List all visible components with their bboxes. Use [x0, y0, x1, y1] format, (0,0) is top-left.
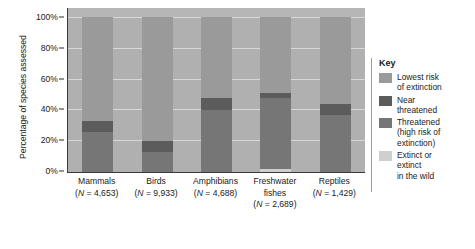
y-tick-mark-0 — [59, 171, 64, 172]
x-label-name: Mammals — [67, 176, 126, 188]
bar-amphibians — [201, 17, 232, 172]
legend-item-2: Threatened(high risk ofextinction) — [379, 117, 475, 148]
legend-label-0: Lowest riskof extinction — [397, 72, 442, 93]
plot-top-margin — [68, 8, 365, 17]
x-label-sample-size: (N = 9,933) — [126, 188, 185, 200]
legend-items: Lowest riskof extinctionNearthreatenedTh… — [379, 72, 475, 181]
legend: Key Lowest riskof extinctionNearthreaten… — [371, 58, 475, 192]
bar-segment-extinct-or-extinct-in-the-wild — [260, 169, 291, 172]
x-label-sample-size: (N = 4,688) — [186, 188, 245, 200]
bar-segment-lowest-risk-of-extinction — [142, 17, 173, 141]
y-tick-label-0: 0% — [46, 166, 58, 176]
legend-swatch-1 — [379, 96, 392, 106]
legend-swatch-0 — [379, 73, 392, 83]
legend-swatch-3 — [379, 151, 392, 161]
x-label-sample-size: (N = 2,689) — [245, 199, 304, 211]
legend-item-1: Nearthreatened — [379, 95, 475, 116]
legend-label-line: (high risk of — [397, 127, 440, 137]
x-label-sample-size: (N = 1,429) — [305, 188, 364, 200]
x-label-name: Reptiles — [305, 176, 364, 188]
y-tick-label-20: 20% — [41, 135, 58, 145]
x-label-name: Birds — [126, 176, 185, 188]
x-axis-label-amphibians: Amphibians(N = 4,688) — [186, 176, 245, 199]
bar-mammals — [82, 17, 113, 172]
x-label-name-line2: fishes — [245, 188, 304, 200]
legend-label-line: extinct — [397, 160, 434, 170]
legend-label-line: Extinct or — [397, 150, 434, 160]
legend-label-line: extinction) — [397, 138, 440, 148]
x-axis-label-mammals: Mammals(N = 4,653) — [67, 176, 126, 199]
x-axis-label-birds: Birds(N = 9,933) — [126, 176, 185, 199]
bar-segment-near-threatened — [142, 141, 173, 152]
bar-segment-threatened-high-risk-of-extinction — [201, 110, 232, 172]
bar-segment-lowest-risk-of-extinction — [82, 17, 113, 121]
legend-swatch-2 — [379, 118, 392, 128]
y-tick-mark-40 — [59, 109, 64, 110]
bar-segment-threatened-high-risk-of-extinction — [82, 132, 113, 172]
legend-label-1: Nearthreatened — [397, 95, 437, 116]
bar-segment-threatened-high-risk-of-extinction — [320, 115, 351, 172]
plot-area — [67, 8, 365, 172]
y-tick-mark-60 — [59, 78, 64, 79]
bar-segment-threatened-high-risk-of-extinction — [142, 152, 173, 172]
legend-label-3: Extinct orextinctin the wild — [397, 150, 434, 181]
x-label-sample-size: (N = 4,653) — [67, 188, 126, 200]
bar-segment-near-threatened — [82, 121, 113, 132]
bar-birds — [142, 17, 173, 172]
y-axis-ticks: 100% 80% 60% 40% 20% 0% — [24, 0, 66, 185]
bar-segment-threatened-high-risk-of-extinction — [260, 98, 291, 169]
y-tick-label-60: 60% — [41, 74, 58, 84]
legend-label-line: in the wild — [397, 171, 434, 181]
bar-segment-lowest-risk-of-extinction — [260, 17, 291, 93]
x-axis-label-reptiles: Reptiles(N = 1,429) — [305, 176, 364, 199]
bar-reptiles — [320, 17, 351, 172]
y-tick-mark-80 — [59, 47, 64, 48]
y-tick-label-40: 40% — [41, 104, 58, 114]
legend-title: Key — [379, 58, 475, 68]
legend-label-line: of extinction — [397, 82, 442, 92]
y-tick-label-100: 100% — [36, 12, 58, 22]
bar-segment-near-threatened — [320, 104, 351, 115]
legend-label-line: Near — [397, 95, 437, 105]
legend-item-0: Lowest riskof extinction — [379, 72, 475, 93]
x-label-name: Freshwater — [245, 176, 304, 188]
y-tick-mark-20 — [59, 140, 64, 141]
legend-label-line: Lowest risk — [397, 72, 442, 82]
bar-segment-lowest-risk-of-extinction — [201, 17, 232, 98]
chart-figure: Percentage of species assessed 100% 80% … — [0, 0, 475, 249]
x-axis-label-freshwater: Freshwaterfishes(N = 2,689) — [245, 176, 304, 211]
x-label-name: Amphibians — [186, 176, 245, 188]
legend-label-line: Threatened — [397, 117, 440, 127]
y-tick-label-80: 80% — [41, 43, 58, 53]
legend-item-3: Extinct orextinctin the wild — [379, 150, 475, 181]
y-tick-mark-100 — [59, 17, 64, 18]
legend-label-2: Threatened(high risk ofextinction) — [397, 117, 440, 148]
bar-segment-lowest-risk-of-extinction — [320, 17, 351, 104]
x-axis-labels: Mammals(N = 4,653)Birds(N = 9,933)Amphib… — [67, 176, 364, 240]
bar-freshwater-fishes — [260, 17, 291, 172]
legend-label-line: threatened — [397, 105, 437, 115]
bar-segment-near-threatened — [201, 98, 232, 110]
